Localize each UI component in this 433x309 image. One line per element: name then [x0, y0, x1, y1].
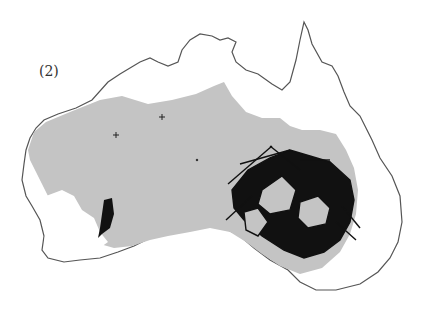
australia-map [0, 0, 433, 309]
panel-label: (2) [39, 63, 59, 79]
